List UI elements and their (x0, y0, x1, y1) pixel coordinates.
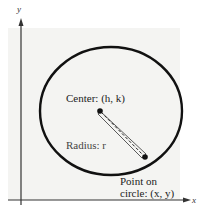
y-axis-label: y (17, 4, 21, 14)
x-axis-label: x (192, 195, 196, 205)
center-label: Center: (h, k) (66, 92, 125, 104)
x-axis-arrow-icon (183, 198, 191, 203)
point-label-line1: Point on (120, 175, 157, 187)
circle-point (142, 154, 148, 160)
radius-line (101, 112, 144, 156)
y-axis-arrow-icon (19, 18, 24, 26)
point-label-line2: circle: (x, y) (120, 187, 174, 199)
circle-diagram: y x Center: (h, k) Radius: r Point on ci… (0, 0, 201, 216)
circle (40, 47, 182, 175)
diagram-graphics (0, 0, 201, 216)
center-point (97, 108, 103, 114)
radius-label: Radius: r (66, 139, 106, 151)
